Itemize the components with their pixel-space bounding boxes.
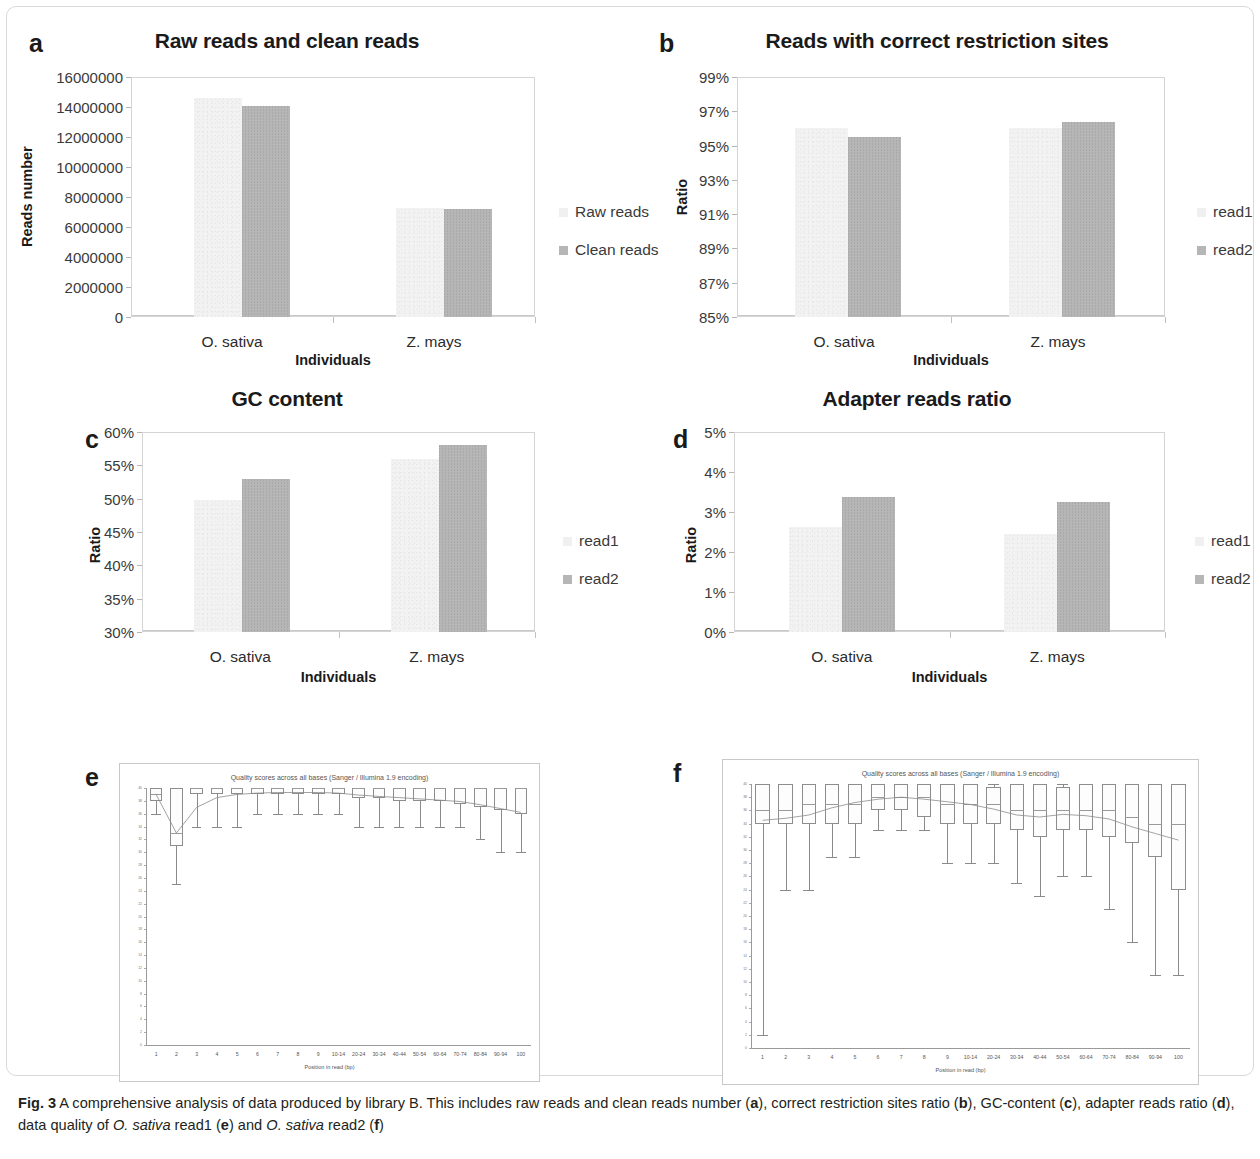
fastqc-y-tick-mark (144, 1006, 146, 1007)
y-axis-tick-label: 50% (84, 490, 134, 507)
x-axis-tick-mark (950, 632, 951, 638)
fastqc-y-tick-mark (144, 904, 146, 905)
legend-swatch-icon (1195, 537, 1204, 546)
y-axis-tick-label: 8000000 (27, 189, 123, 206)
panel-d: d Adapter reads ratio Ratio Individuals … (637, 377, 1260, 727)
fastqc-x-tick-label: 40-44 (1028, 1054, 1051, 1060)
bar-zmays-read1 (1009, 128, 1062, 317)
x-axis-tick-label: O. sativa (131, 333, 333, 351)
y-axis-tick-label: 97% (677, 103, 729, 120)
fastqc-whisker-cap (965, 863, 976, 864)
legend-swatch-icon (1197, 208, 1206, 217)
x-axis-tick-label: Z. mays (950, 648, 1166, 666)
x-axis-tick-mark (339, 632, 340, 638)
legend-swatch-icon (563, 537, 572, 546)
fastqc-whisker-cap (334, 814, 344, 815)
y-axis-tick-mark (126, 137, 131, 138)
fastqc-median-line (352, 788, 365, 789)
fastqc-x-tick-label: 2 (774, 1054, 797, 1060)
fastqc-median-line (848, 804, 862, 805)
bar-zmays-read1 (1004, 534, 1057, 632)
fastqc-y-tick-label: 4 (723, 1020, 747, 1024)
fastqc-y-tick-label: 34 (723, 822, 747, 826)
bar-zmays-read2 (1057, 502, 1110, 632)
y-axis-tick-mark (137, 432, 142, 433)
legend-item-read2: read2 (1195, 570, 1251, 588)
y-axis-tick-mark (137, 632, 142, 633)
fastqc-x-tick-label: 10-14 (328, 1051, 348, 1057)
fastqc-y-tick-mark (749, 1022, 751, 1023)
fastqc-whisker-cap (1150, 975, 1161, 976)
y-axis-tick-label: 85% (677, 309, 729, 326)
panel-c-y-axis-title: Ratio (87, 495, 103, 595)
fastqc-x-tick-label: 90-94 (490, 1051, 510, 1057)
fastqc-whisker-cap (1057, 876, 1068, 877)
fastqc-y-tick-label: 24 (723, 888, 747, 892)
fastqc-x-axis-title: Position in read (bp) (723, 1067, 1198, 1073)
legend-label: read2 (1213, 241, 1253, 259)
fastqc-y-tick-mark (144, 852, 146, 853)
bar-zmays-read1 (391, 459, 439, 632)
panel-f: f Quality scores across all bases (Sange… (637, 747, 1260, 1077)
legend-label: read1 (1213, 203, 1253, 221)
fastqc-y-tick-mark (144, 801, 146, 802)
panel-c: c GC content Ratio Individuals read1 rea… (7, 377, 631, 727)
fastqc-box (1125, 784, 1139, 843)
fastqc-y-tick-label: 10 (723, 980, 747, 984)
fastqc-y-tick-mark (749, 890, 751, 891)
legend-swatch-icon (563, 575, 572, 584)
fastqc-median-line (940, 804, 954, 805)
fastqc-box (1010, 784, 1024, 830)
fastqc-y-tick-mark (144, 981, 146, 982)
legend-item-read1: read1 (1195, 532, 1251, 550)
fastqc-x-tick-label: 20-24 (982, 1054, 1005, 1060)
legend-item-read2: read2 (1197, 241, 1253, 259)
fastqc-median-line (454, 788, 467, 789)
caption-text-6: read1 ( (171, 1117, 221, 1133)
caption-text-2: ), correct restriction sites ratio ( (758, 1095, 958, 1111)
fastqc-whisker-cap (849, 857, 860, 858)
fastqc-y-tick-mark (144, 827, 146, 828)
panel-f-letter: f (673, 761, 681, 786)
y-axis-tick-label: 6000000 (27, 219, 123, 236)
x-axis-tick-label: Z. mays (951, 333, 1165, 351)
fastqc-x-tick-label: 10-14 (959, 1054, 982, 1060)
panel-a-title: Raw reads and clean reads (67, 29, 507, 53)
fastqc-x-tick-label: 5 (227, 1051, 247, 1057)
caption-text-3: ), GC-content ( (968, 1095, 1065, 1111)
legend-swatch-icon (559, 246, 568, 255)
fastqc-median-line (986, 804, 1000, 805)
panel-d-legend: read1 read2 (1195, 532, 1251, 608)
y-axis-tick-mark (732, 214, 737, 215)
fastqc-y-tick-label: 18 (723, 927, 747, 931)
fastqc-median-line (825, 804, 839, 805)
fastqc-box (986, 787, 1000, 823)
fastqc-y-tick-label: 30 (723, 848, 747, 852)
fastqc-y-tick-label: 12 (120, 966, 142, 970)
fastqc-y-tick-mark (144, 891, 146, 892)
fastqc-x-tick-label: 50-54 (1051, 1054, 1074, 1060)
fastqc-x-tick-label: 30-34 (1005, 1054, 1028, 1060)
y-axis-tick-mark (126, 167, 131, 168)
y-axis-tick-label: 14000000 (27, 99, 123, 116)
fastqc-whisker-cap (1104, 909, 1115, 910)
bar-osativa-clean-reads (242, 106, 290, 318)
y-axis-tick-mark (729, 592, 734, 593)
fastqc-y-tick-label: 26 (723, 874, 747, 878)
fastqc-median-line (271, 788, 284, 789)
fastqc-median-line (251, 788, 264, 789)
fastqc-median-line (1033, 810, 1047, 811)
y-axis-tick-mark (732, 317, 737, 318)
fastqc-y-axis (146, 788, 147, 1045)
y-axis-tick-mark (137, 532, 142, 533)
fastqc-y-tick-mark (749, 850, 751, 851)
fastqc-y-tick-mark (749, 903, 751, 904)
x-axis-tick-mark (535, 632, 536, 638)
y-axis-tick-label: 0% (692, 624, 726, 641)
fastqc-y-tick-mark (749, 784, 751, 785)
fastqc-y-tick-label: 38 (120, 799, 142, 803)
panel-a: a Raw reads and clean reads Reads number… (7, 7, 631, 377)
bar-osativa-read1 (795, 128, 848, 317)
fastqc-whisker-cap (212, 827, 222, 828)
panel-b-letter: b (659, 31, 674, 56)
